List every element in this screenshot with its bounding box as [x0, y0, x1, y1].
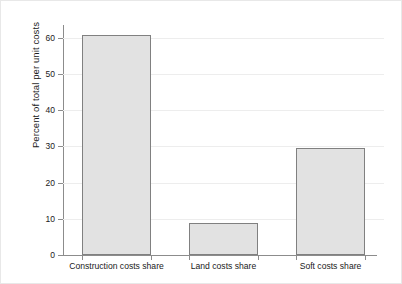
x-tick-mark — [189, 256, 190, 260]
y-tick-mark — [58, 183, 63, 184]
y-tick-label: 30 — [15, 141, 55, 151]
x-tick-label: Land costs share — [191, 261, 256, 271]
y-tick-label: 0 — [15, 250, 55, 260]
y-tick-mark — [58, 146, 63, 147]
x-tick-label: Soft costs share — [300, 261, 362, 271]
y-tick-mark — [58, 110, 63, 111]
y-tick-label: 60 — [15, 33, 55, 43]
y-tick-label: 50 — [15, 69, 55, 79]
x-tick-mark — [151, 256, 152, 260]
y-tick-mark — [58, 38, 63, 39]
x-tick-mark — [296, 256, 297, 260]
y-tick-mark — [58, 255, 63, 256]
x-tick-mark — [365, 256, 366, 260]
bar — [296, 148, 365, 255]
x-tick-label: Construction costs share — [69, 261, 164, 271]
bar — [82, 35, 151, 255]
y-tick-label: 10 — [15, 214, 55, 224]
x-tick-mark — [258, 256, 259, 260]
y-tick-mark — [58, 219, 63, 220]
y-tick-label: 40 — [15, 105, 55, 115]
y-tick-label: 20 — [15, 178, 55, 188]
chart-figure: Percent of total per unit costs 01020304… — [0, 0, 402, 284]
y-axis-title: Percent of total per unit costs — [30, 0, 46, 185]
x-tick-mark — [82, 256, 83, 260]
bar — [189, 223, 258, 255]
y-tick-mark — [58, 74, 63, 75]
